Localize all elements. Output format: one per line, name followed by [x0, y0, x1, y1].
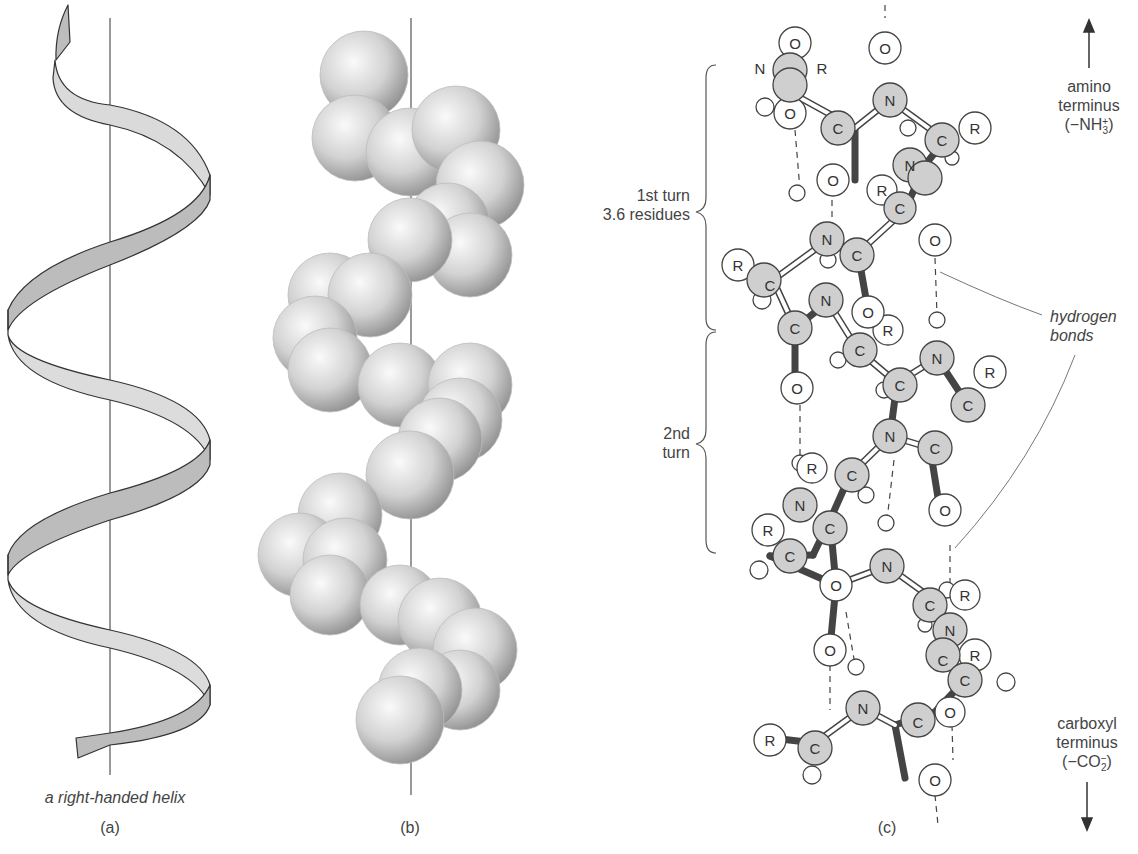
- ribbon: [8, 5, 210, 758]
- svg-text:N: N: [932, 350, 943, 367]
- svg-text:R: R: [817, 60, 828, 77]
- svg-text:O: O: [784, 105, 796, 122]
- carboxyl-terminus-arrow: [1082, 782, 1092, 830]
- svg-text:N: N: [795, 497, 806, 514]
- svg-text:C: C: [938, 652, 949, 669]
- svg-text:R: R: [807, 460, 818, 477]
- svg-text:N: N: [945, 622, 956, 639]
- first-turn-text: 1st turn: [560, 186, 690, 205]
- svg-text:C: C: [960, 672, 971, 689]
- svg-text:N: N: [858, 700, 869, 717]
- carboxyl-text-1: carboxyl: [1038, 714, 1136, 733]
- second-turn-text-2: turn: [600, 443, 690, 462]
- carboxyl-formula: (−CO−2): [1038, 752, 1136, 772]
- svg-text:C: C: [937, 132, 948, 149]
- svg-text:N: N: [822, 231, 833, 248]
- svg-text:C: C: [810, 740, 821, 757]
- amino-text-1: amino: [1040, 77, 1138, 96]
- svg-text:C: C: [785, 548, 796, 565]
- svg-text:O: O: [827, 172, 839, 189]
- svg-text:C: C: [847, 467, 858, 484]
- svg-text:N: N: [885, 92, 896, 109]
- svg-text:O: O: [830, 577, 842, 594]
- amino-terminus-label: amino terminus (−NH+3): [1040, 77, 1138, 135]
- svg-text:N: N: [821, 292, 832, 309]
- svg-text:N: N: [755, 60, 766, 77]
- svg-text:O: O: [929, 772, 941, 789]
- svg-text:O: O: [929, 232, 941, 249]
- svg-text:O: O: [791, 380, 803, 397]
- svg-text:R: R: [763, 522, 774, 539]
- svg-text:R: R: [970, 120, 981, 137]
- first-turn-label: 1st turn 3.6 residues: [560, 186, 690, 224]
- svg-text:N: N: [885, 428, 896, 445]
- svg-text:O: O: [824, 642, 836, 659]
- side-chain-atoms: [722, 112, 1006, 756]
- svg-text:N: N: [905, 157, 916, 174]
- helix-caption: a right-handed helix: [0, 788, 230, 807]
- svg-text:R: R: [765, 732, 776, 749]
- panel-label-c: (c): [867, 818, 907, 837]
- hydrogen-bonds-text-2: bonds: [1050, 326, 1138, 345]
- svg-text:R: R: [883, 322, 894, 339]
- svg-text:O: O: [879, 40, 891, 57]
- svg-text:C: C: [765, 277, 776, 294]
- svg-text:R: R: [970, 647, 981, 664]
- carboxyl-terminus-label: carboxyl terminus (−CO−2): [1038, 714, 1136, 772]
- second-turn-text-1: 2nd: [600, 424, 690, 443]
- svg-text:C: C: [833, 120, 844, 137]
- svg-text:C: C: [895, 200, 906, 217]
- amino-terminus-arrow: [1084, 20, 1094, 68]
- space-filling-model: [258, 31, 524, 764]
- svg-text:C: C: [930, 440, 941, 457]
- svg-text:O: O: [939, 502, 951, 519]
- svg-text:R: R: [877, 182, 888, 199]
- svg-text:C: C: [963, 397, 974, 414]
- carboxyl-text-2: terminus: [1038, 733, 1136, 752]
- second-turn-label: 2nd turn: [600, 424, 690, 462]
- svg-text:O: O: [862, 304, 874, 321]
- svg-text:R: R: [985, 364, 996, 381]
- svg-text:C: C: [895, 377, 906, 394]
- svg-text:C: C: [913, 714, 924, 731]
- svg-text:C: C: [825, 520, 836, 537]
- svg-text:C: C: [852, 247, 863, 264]
- panel-label-b: (b): [390, 818, 430, 837]
- brace-second-turn: [696, 332, 716, 553]
- amino-formula: (−NH+3): [1040, 115, 1138, 135]
- panel-label-a: (a): [90, 818, 130, 837]
- svg-text:O: O: [944, 704, 956, 721]
- svg-text:C: C: [790, 320, 801, 337]
- hydrogen-bonds-text-1: hydrogen: [1050, 307, 1138, 326]
- brace-first-turn: [696, 65, 716, 330]
- amino-text-2: terminus: [1040, 96, 1138, 115]
- first-turn-residues: 3.6 residues: [560, 205, 690, 224]
- hydrogen-bonds-label: hydrogen bonds: [1050, 307, 1138, 345]
- svg-text:O: O: [789, 35, 801, 52]
- svg-text:C: C: [855, 342, 866, 359]
- svg-text:R: R: [960, 587, 971, 604]
- svg-text:C: C: [925, 597, 936, 614]
- svg-text:R: R: [733, 257, 744, 274]
- svg-text:N: N: [882, 558, 893, 575]
- ribbon-helix-diagram: O N R O O C N C R N O R C O N C R C N O …: [0, 0, 1138, 854]
